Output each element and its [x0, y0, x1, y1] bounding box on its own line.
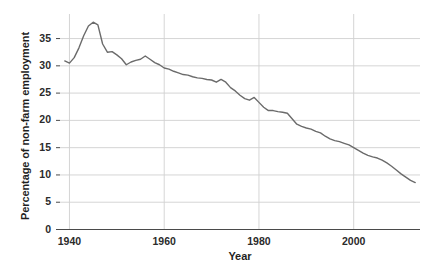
- chart-figure: Percentage of non-farm employment Year 0…: [0, 0, 425, 272]
- y-tick-label: 10: [29, 168, 51, 180]
- y-tick-label: 30: [29, 59, 51, 71]
- x-tick-label: 1960: [144, 235, 184, 247]
- y-tick-label: 0: [29, 223, 51, 235]
- x-tick-label: 2000: [334, 235, 374, 247]
- y-tick-label: 35: [29, 32, 51, 44]
- x-tick-label: 1940: [49, 235, 89, 247]
- data-line-union-membership: [65, 22, 416, 182]
- line-chart-plot: [0, 0, 425, 272]
- tick-marks: [56, 39, 60, 230]
- gridlines: [60, 14, 420, 230]
- x-tick-label: 1980: [239, 235, 279, 247]
- y-tick-label: 5: [29, 195, 51, 207]
- y-tick-label: 20: [29, 113, 51, 125]
- y-tick-label: 15: [29, 141, 51, 153]
- y-tick-label: 25: [29, 86, 51, 98]
